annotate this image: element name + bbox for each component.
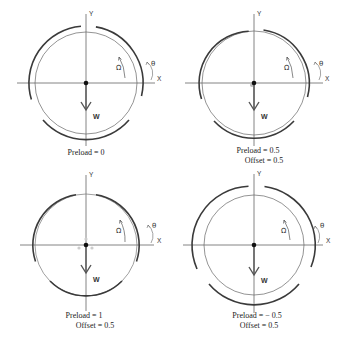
offset-marker	[84, 237, 87, 240]
offset-caption: Offset = 0.5	[50, 321, 140, 330]
center-dot	[252, 81, 257, 86]
theta-arrowhead-icon	[146, 62, 149, 65]
theta-arrowhead-icon	[314, 62, 317, 65]
panel-preload-1: Y X θ Ω W Preload = 1 Offset = 0.5	[0, 169, 169, 338]
panel-preload-0-5: Y X θ Ω W Preload = 0.5 Offset = 0.5	[169, 0, 338, 169]
omega-label: Ω	[116, 64, 121, 72]
theta-arrowhead-icon	[147, 225, 150, 228]
bearing-preload-diagram: Y X θ Ω W Preload = 0 Y X θ Ω W Preloa	[0, 0, 338, 338]
omega-label: Ω	[284, 64, 289, 72]
center-dot	[252, 243, 257, 248]
theta-label: θ	[319, 60, 323, 68]
y-axis-label: Y	[89, 171, 93, 178]
y-axis-label: Y	[257, 170, 261, 177]
panel-preload-neg-0-5: Y X θ Ω W Preload = − 0.5 Offset = 0.5	[169, 169, 338, 338]
load-label: W	[93, 276, 100, 283]
x-axis-label: X	[325, 75, 329, 82]
panel-preload-0: Y X θ Ω W Preload = 0	[0, 0, 169, 169]
bearing-drawing	[0, 0, 169, 169]
preload-caption: Preload = 0	[46, 148, 126, 157]
offset-caption: Offset = 0.5	[219, 156, 309, 165]
y-axis-label: Y	[89, 10, 93, 17]
x-axis-label: X	[326, 237, 330, 244]
load-label: W	[261, 113, 268, 120]
pad-upper-left	[192, 186, 248, 269]
preload-caption: Preload = 0.5	[213, 146, 303, 155]
pad-upper-left	[29, 26, 81, 99]
x-axis-label: X	[157, 75, 161, 82]
pad-upper-right	[96, 27, 143, 96]
y-axis-label: Y	[257, 10, 261, 17]
bearing-drawing	[169, 0, 338, 169]
offset-marker	[77, 246, 80, 249]
theta-label: θ	[152, 222, 156, 230]
preload-caption: Preload = 1	[44, 311, 124, 320]
pad-upper-left	[199, 31, 249, 99]
theta-label: θ	[320, 222, 324, 230]
preload-caption: Preload = − 0.5	[207, 311, 307, 320]
center-dot	[84, 243, 89, 248]
offset-marker	[90, 246, 93, 249]
theta-arrowhead-icon	[314, 226, 317, 229]
omega-label: Ω	[281, 227, 286, 235]
omega-label: Ω	[116, 227, 121, 235]
load-label: W	[93, 113, 100, 120]
x-axis-label: X	[157, 237, 161, 244]
theta-label: θ	[151, 60, 155, 68]
load-label: W	[261, 277, 268, 284]
center-dot	[84, 81, 89, 86]
offset-caption: Offset = 0.5	[209, 321, 309, 330]
